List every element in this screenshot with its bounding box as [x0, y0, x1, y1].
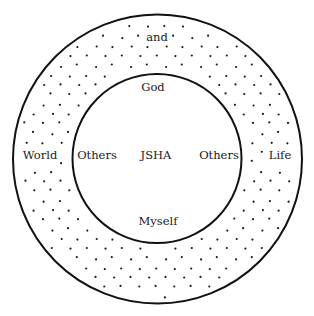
label-others-left: Others: [77, 150, 117, 162]
label-others-right: Others: [199, 150, 239, 162]
label-jsha: JSHA: [141, 150, 172, 162]
label-and: and: [146, 32, 168, 44]
label-life: Life: [269, 150, 291, 162]
label-god: God: [141, 82, 164, 94]
label-myself: Myself: [139, 216, 178, 228]
concentric-circle-diagram: and God World Others JSHA Others Life My…: [0, 0, 314, 316]
label-world: World: [23, 150, 58, 162]
